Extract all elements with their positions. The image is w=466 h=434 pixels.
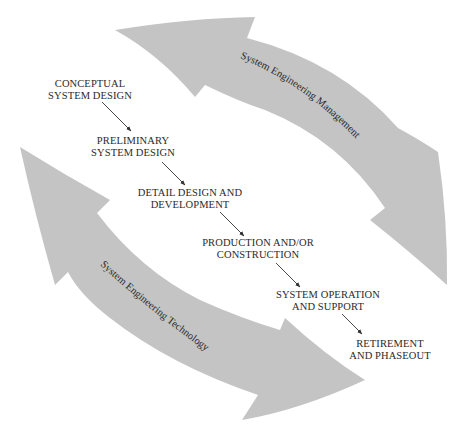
phase-operation-support: SYSTEM OPERATION AND SUPPORT [276, 289, 380, 312]
phase-line-2: SYSTEM DESIGN [48, 90, 132, 102]
connector-3-4 [220, 212, 244, 236]
phase-production: PRODUCTION AND/OR CONSTRUCTION [202, 237, 314, 260]
phase-conceptual-design: CONCEPTUAL SYSTEM DESIGN [48, 78, 132, 101]
phase-line-1: CONCEPTUAL [48, 78, 132, 90]
phase-line-2: AND PHASEOUT [349, 350, 430, 362]
phase-line-1: PRELIMINARY [91, 135, 175, 147]
phase-line-2: SYSTEM DESIGN [91, 147, 175, 159]
connector-5-6 [342, 314, 362, 334]
diagram-canvas: System Engineering Management System Eng… [0, 0, 466, 434]
phase-line-1: SYSTEM OPERATION [276, 289, 380, 301]
connector-4-5 [276, 263, 300, 287]
phase-line-2: AND SUPPORT [276, 301, 380, 313]
life-cycle-diagram: System Engineering Management System Eng… [0, 0, 466, 434]
connector-2-3 [162, 162, 185, 185]
phase-line-1: RETIREMENT [349, 338, 430, 350]
phase-line-1: DETAIL DESIGN AND [138, 187, 242, 199]
connector-1-2 [102, 102, 131, 131]
phase-line-1: PRODUCTION AND/OR [202, 237, 314, 249]
phase-line-2: CONSTRUCTION [202, 249, 314, 261]
phase-retirement: RETIREMENT AND PHASEOUT [349, 338, 430, 361]
phase-preliminary-design: PRELIMINARY SYSTEM DESIGN [91, 135, 175, 158]
phase-line-2: DEVELOPMENT [138, 199, 242, 211]
phase-detail-design: DETAIL DESIGN AND DEVELOPMENT [138, 187, 242, 210]
